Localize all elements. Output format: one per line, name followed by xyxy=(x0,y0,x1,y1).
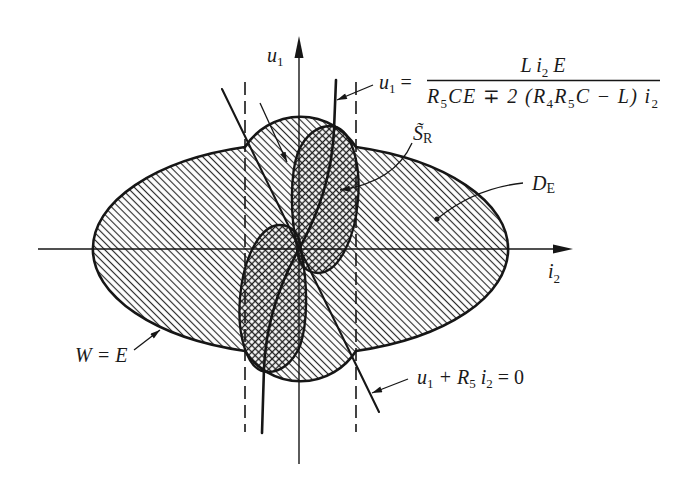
label-d-e: DE xyxy=(531,172,555,196)
pointer-line-eq xyxy=(372,379,408,393)
axis-label-u1: u1 xyxy=(267,44,284,69)
pointer-formula xyxy=(337,85,373,100)
pointer-w-eq-e xyxy=(134,330,160,350)
label-s-r: S̃R xyxy=(413,122,433,146)
pointer-d-e-dot xyxy=(434,216,439,221)
formula-denominator: R5CE ∓ 2 (R4R5C − L) i2 xyxy=(426,85,658,111)
label-line-eq: u1 + R5 i2 = 0 xyxy=(417,366,524,391)
axis-arrowhead-right xyxy=(553,245,573,254)
label-w-eq-e: W = E xyxy=(75,344,127,366)
formula-numerator: L i2 E xyxy=(519,54,565,80)
axis-label-i2: i2 xyxy=(548,260,560,286)
axis-arrowhead-up xyxy=(295,36,304,58)
diagram-canvas: u1 i2 u1 = L i2 E R5CE ∓ 2 (R4R5C − L) i… xyxy=(0,0,693,484)
formula-lhs: u1 = xyxy=(379,71,412,96)
formula-u1: u1 = L i2 E R5CE ∓ 2 (R4R5C − L) i2 xyxy=(379,54,660,111)
